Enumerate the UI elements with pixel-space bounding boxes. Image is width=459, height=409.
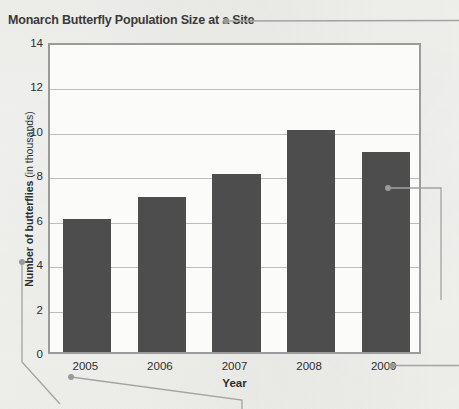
y-axis-title: Number of butterflies (in thousands)	[23, 99, 35, 299]
y-tick-label-14: 14	[3, 37, 43, 49]
title-callout-dot	[223, 18, 229, 24]
x-tick-label-2005: 2005	[73, 360, 99, 372]
bar-2006	[138, 197, 186, 353]
plot-area	[48, 43, 421, 354]
x-tick-label-2008: 2008	[296, 360, 322, 372]
y-axis-label-callout-dot	[19, 259, 25, 265]
y-axis-title-name: Number of butterflies	[23, 181, 35, 287]
x-axis-title: Year	[48, 377, 421, 389]
x-2009-callout-dot	[389, 363, 395, 369]
chart-title: Monarch Butterfly Population Size at a S…	[8, 13, 254, 27]
bar-2007	[212, 174, 260, 352]
title-leader-line	[226, 21, 459, 22]
x-2005-callout-dot	[68, 374, 74, 380]
y-tick-label-2: 2	[3, 304, 43, 316]
x-tick-label-2007: 2007	[222, 360, 248, 372]
bar-2008	[287, 130, 335, 352]
y-tick-label-12: 12	[3, 81, 43, 93]
y-axis-tick-labels: 02468101214	[0, 43, 43, 354]
bar-2005	[63, 219, 111, 352]
y-tick-label-0: 0	[3, 348, 43, 360]
x-axis-tick-labels: 20052006200720082009	[48, 360, 421, 376]
bar-2009	[362, 152, 410, 352]
chart-page: Monarch Butterfly Population Size at a S…	[0, 0, 459, 409]
y-axis-title-unit: (in thousands)	[23, 111, 35, 180]
x-tick-label-2006: 2006	[147, 360, 173, 372]
bar-2009-callout-dot	[385, 185, 391, 191]
gridline-12	[50, 89, 419, 90]
gridline-10	[50, 134, 419, 135]
